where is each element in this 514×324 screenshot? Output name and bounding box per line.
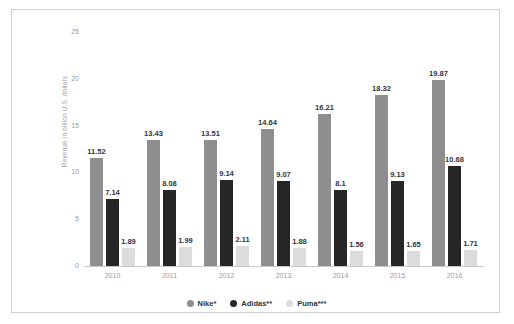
bar: [293, 248, 306, 266]
y-axis-tick: 20: [61, 75, 79, 83]
bar-value-label: 8.08: [156, 179, 184, 188]
bar: [204, 140, 217, 266]
bar-group: 14.649.071.88: [261, 32, 306, 266]
bar-value-label: 8.1: [327, 179, 355, 188]
bar-group: 16.218.11.56: [318, 32, 363, 266]
bar-value-label: 18.32: [368, 84, 396, 93]
bar: [375, 95, 388, 266]
bar-value-label: 14.64: [254, 118, 282, 127]
bar-value-label: 13.43: [140, 129, 168, 138]
chart-figure: Revenue in billion U.S. dollars 05101520…: [0, 0, 514, 324]
bar-value-label: 9.07: [270, 170, 298, 179]
x-axis-baseline: [84, 266, 484, 267]
bar: [90, 158, 103, 266]
bar: [179, 247, 192, 266]
bar-value-label: 9.13: [384, 170, 412, 179]
x-axis-tick: 2015: [378, 272, 418, 279]
x-axis-tick: 2011: [150, 272, 190, 279]
bar-value-label: 9.14: [213, 169, 241, 178]
chart-card: Revenue in billion U.S. dollars 05101520…: [11, 9, 500, 313]
y-axis-tick: 10: [61, 168, 79, 176]
legend-item[interactable]: Puma***: [286, 299, 326, 308]
y-axis-tick: 0: [61, 262, 79, 270]
legend-item[interactable]: Adidas**: [230, 299, 272, 308]
bar: [464, 250, 477, 266]
bar: [261, 129, 274, 266]
bar: [220, 180, 233, 266]
legend-swatch-icon: [230, 300, 237, 307]
legend-item[interactable]: Nike*: [187, 299, 217, 308]
x-axis-tick: 2010: [93, 272, 133, 279]
bar-value-label: 19.87: [425, 69, 453, 78]
bar-value-label: 13.51: [197, 129, 225, 138]
bar: [407, 251, 420, 266]
bar: [277, 181, 290, 266]
bar: [448, 166, 461, 266]
x-axis-tick: 2014: [321, 272, 361, 279]
legend-label: Adidas**: [241, 299, 272, 308]
bar-value-label: 1.99: [172, 236, 200, 245]
bar-value-label: 1.65: [400, 240, 428, 249]
bar-group: 11.527.141.89: [90, 32, 135, 266]
bar-value-label: 2.11: [229, 235, 257, 244]
bar-group: 18.329.131.65: [375, 32, 420, 266]
legend-label: Nike*: [198, 299, 217, 308]
bar-value-label: 11.52: [83, 147, 111, 156]
bar: [147, 140, 160, 266]
bar-value-label: 1.71: [457, 239, 485, 248]
bar: [318, 114, 331, 266]
bar: [350, 251, 363, 266]
bar-value-label: 7.14: [99, 188, 127, 197]
bar-value-label: 16.21: [311, 103, 339, 112]
bar-value-label: 1.56: [343, 240, 371, 249]
y-axis-tick: 5: [61, 215, 79, 223]
y-axis-tick: 15: [61, 122, 79, 130]
bar-value-label: 1.89: [115, 237, 143, 246]
bar: [122, 248, 135, 266]
bar: [334, 190, 347, 266]
chart-legend: Nike*Adidas**Puma***: [12, 299, 501, 308]
legend-swatch-icon: [286, 300, 293, 307]
bar-group: 13.519.142.11: [204, 32, 249, 266]
bar-value-label: 10.68: [441, 155, 469, 164]
bar-value-label: 1.88: [286, 237, 314, 246]
bar: [432, 80, 445, 266]
legend-swatch-icon: [187, 300, 194, 307]
x-axis-tick: 2012: [207, 272, 247, 279]
bar: [106, 199, 119, 266]
bar-group: 13.438.081.99: [147, 32, 192, 266]
x-axis-tick: 2016: [435, 272, 475, 279]
clipped-title: [0, 0, 514, 9]
bar-group: 19.8710.681.71: [432, 32, 477, 266]
bar: [391, 181, 404, 266]
x-axis-tick: 2013: [264, 272, 304, 279]
bar: [236, 246, 249, 266]
legend-label: Puma***: [297, 299, 326, 308]
bar: [163, 190, 176, 266]
y-axis-tick: 25: [61, 28, 79, 36]
plot-area: 11.527.141.8913.438.081.9913.519.142.111…: [84, 32, 483, 266]
